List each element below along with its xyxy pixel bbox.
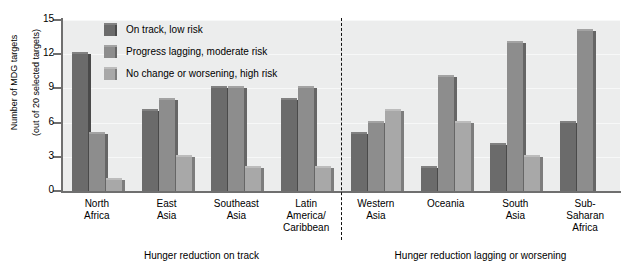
bar-top bbox=[159, 98, 175, 100]
legend-label: Progress lagging, moderate risk bbox=[126, 46, 267, 57]
bar-face bbox=[560, 123, 576, 191]
x-axis-label-line: Asia bbox=[481, 210, 551, 222]
x-axis-label: Oceania bbox=[411, 198, 481, 210]
bar-side bbox=[593, 31, 596, 191]
bar-side bbox=[122, 180, 125, 191]
y-axis-tick bbox=[53, 87, 63, 89]
x-axis-label-line: Southeast bbox=[202, 198, 272, 210]
group-caption: Hunger reduction on track bbox=[62, 250, 341, 261]
legend-swatch-icon bbox=[104, 45, 117, 58]
y-axis-tick bbox=[53, 53, 63, 55]
y-axis-tick-label: 3 bbox=[16, 150, 54, 161]
bar bbox=[421, 168, 437, 191]
x-axis-label-line: Asia bbox=[202, 210, 272, 222]
bar-side bbox=[540, 157, 543, 191]
bar-face bbox=[577, 31, 593, 191]
bar bbox=[507, 43, 523, 191]
bar-face bbox=[176, 157, 192, 191]
bar-face bbox=[455, 123, 471, 191]
bar-side bbox=[471, 123, 474, 191]
y-axis-line bbox=[61, 18, 63, 193]
group-caption: Hunger reduction lagging or worsening bbox=[341, 250, 620, 261]
x-axis-label: SouthAsia bbox=[481, 198, 551, 222]
mdg-targets-bar-chart: Number of MDG targets (out of 20 selecte… bbox=[0, 0, 626, 276]
bar-side bbox=[192, 157, 195, 191]
x-axis-label: WesternAsia bbox=[341, 198, 411, 222]
bar-face bbox=[72, 54, 88, 191]
bar-top bbox=[351, 132, 367, 134]
x-axis-label-line: America/ bbox=[271, 210, 341, 222]
bar bbox=[106, 180, 122, 191]
y-axis-tick-label: 9 bbox=[16, 81, 54, 92]
bar bbox=[228, 88, 244, 191]
legend-swatch-face bbox=[104, 69, 115, 80]
x-axis-label-line: South bbox=[481, 198, 551, 210]
y-axis-tick bbox=[53, 122, 63, 124]
bar bbox=[142, 111, 158, 191]
bar-top bbox=[577, 29, 593, 31]
bar bbox=[281, 100, 297, 191]
bar-side bbox=[331, 168, 334, 191]
bar-top bbox=[490, 143, 506, 145]
bar bbox=[560, 123, 576, 191]
x-axis-label-line: Saharan bbox=[550, 210, 620, 222]
legend-swatch-top bbox=[104, 67, 117, 69]
legend-swatch-side bbox=[115, 47, 117, 58]
legend-label: No change or worsening, high risk bbox=[126, 68, 277, 79]
bar bbox=[72, 54, 88, 191]
bar-face bbox=[524, 157, 540, 191]
y-axis-tick bbox=[53, 190, 63, 192]
bar-top bbox=[560, 121, 576, 123]
bar bbox=[438, 77, 454, 191]
bar-top bbox=[228, 86, 244, 88]
x-axis-label-line: Western bbox=[341, 198, 411, 210]
bar bbox=[455, 123, 471, 191]
bar-top bbox=[298, 86, 314, 88]
bar-face bbox=[211, 88, 227, 191]
bar-face bbox=[106, 180, 122, 191]
x-axis-label-line: North bbox=[62, 198, 132, 210]
bar-face bbox=[368, 123, 384, 191]
bar-face bbox=[315, 168, 331, 191]
legend-swatch-icon bbox=[104, 23, 117, 36]
bar-face bbox=[228, 88, 244, 191]
x-axis-label-line: East bbox=[132, 198, 202, 210]
bar-top bbox=[281, 98, 297, 100]
bar-top bbox=[89, 132, 105, 134]
legend-swatch-face bbox=[104, 25, 115, 36]
bar bbox=[89, 134, 105, 191]
legend-swatch-top bbox=[104, 23, 117, 25]
bar-top bbox=[438, 75, 454, 77]
bar-face bbox=[159, 100, 175, 191]
bar bbox=[577, 31, 593, 191]
x-axis-label-line: Sub- bbox=[550, 198, 620, 210]
bar bbox=[368, 123, 384, 191]
x-axis-label: SoutheastAsia bbox=[202, 198, 272, 222]
bar-top bbox=[507, 41, 523, 43]
bar-side bbox=[261, 168, 264, 191]
bar-face bbox=[89, 134, 105, 191]
bar bbox=[298, 88, 314, 191]
bar-side bbox=[401, 111, 404, 191]
bar bbox=[351, 134, 367, 191]
bar bbox=[176, 157, 192, 191]
y-axis-tick-label: 6 bbox=[16, 116, 54, 127]
bar bbox=[211, 88, 227, 191]
y-axis-tick-label: 0 bbox=[16, 184, 54, 195]
bar-top bbox=[211, 86, 227, 88]
bar-face bbox=[421, 168, 437, 191]
bar-top bbox=[176, 155, 192, 157]
x-axis-label-line: Latin bbox=[271, 198, 341, 210]
bar-face bbox=[438, 77, 454, 191]
legend-label: On track, low risk bbox=[126, 24, 203, 35]
x-axis-label-line: Asia bbox=[132, 210, 202, 222]
bar bbox=[159, 100, 175, 191]
bar bbox=[490, 145, 506, 191]
bar-face bbox=[351, 134, 367, 191]
bar-top bbox=[245, 166, 261, 168]
legend-swatch-side bbox=[115, 25, 117, 36]
bar-top bbox=[106, 178, 122, 180]
bar-top bbox=[421, 166, 437, 168]
x-axis-label: EastAsia bbox=[132, 198, 202, 222]
x-axis-label: LatinAmerica/Caribbean bbox=[271, 198, 341, 234]
